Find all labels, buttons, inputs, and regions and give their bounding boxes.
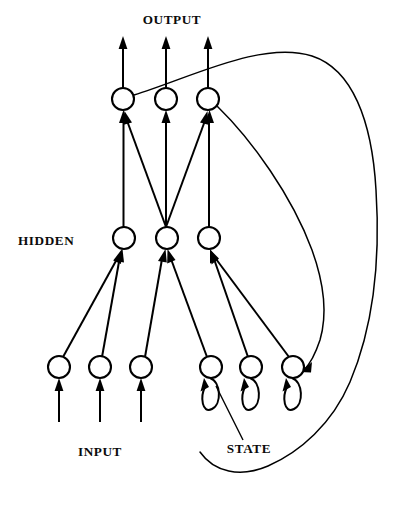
external-output-arrows xyxy=(119,36,213,88)
node-hidden-1[interactable] xyxy=(113,227,135,249)
network-diagram: OUTPUT HIDDEN INPUT STATE xyxy=(0,0,394,507)
arrow-hidden2-output1 xyxy=(124,111,132,125)
edge-state2-hidden3 xyxy=(214,259,248,357)
state-layer-nodes xyxy=(200,356,304,378)
label-hidden: HIDDEN xyxy=(18,233,74,248)
node-state-1[interactable] xyxy=(200,356,222,378)
state-leader-line xyxy=(216,386,243,440)
node-input-2[interactable] xyxy=(89,356,111,378)
edge-hidden2-output1 xyxy=(128,122,167,227)
label-output: OUTPUT xyxy=(143,12,202,27)
network-svg: OUTPUT HIDDEN INPUT STATE xyxy=(0,0,394,507)
edge-input3-hidden2 xyxy=(145,259,162,357)
node-output-1[interactable] xyxy=(112,88,134,110)
edge-hidden2-output3 xyxy=(166,122,205,227)
edge-state1-hidden2 xyxy=(171,259,207,357)
recurrent-edge-output3-to-state3 xyxy=(217,106,324,370)
input-to-hidden-edges xyxy=(63,249,289,357)
edge-input2-hidden1 xyxy=(102,259,120,357)
state-label-leader xyxy=(216,386,243,440)
node-input-3[interactable] xyxy=(130,356,152,378)
node-input-1[interactable] xyxy=(48,356,70,378)
node-hidden-2[interactable] xyxy=(156,227,178,249)
recurrent-edge-output1-to-state3 xyxy=(134,52,377,472)
node-output-2[interactable] xyxy=(155,88,177,110)
arrow-input3-hidden2 xyxy=(158,249,167,263)
edge-input1-hidden1 xyxy=(63,259,117,357)
node-output-3[interactable] xyxy=(197,88,219,110)
output-arrow-2-head xyxy=(162,36,171,49)
state-self-loops xyxy=(201,378,301,410)
label-state: STATE xyxy=(227,441,271,456)
input-arrow-2-head xyxy=(96,378,105,391)
edge-state3-hidden3 xyxy=(216,259,289,357)
output-arrow-1-head xyxy=(119,36,128,49)
node-state-3[interactable] xyxy=(282,356,304,378)
external-input-arrows xyxy=(55,378,146,422)
arrow-state1-hidden2 xyxy=(167,249,175,264)
input-layer-nodes xyxy=(48,356,152,378)
recurrent-feedback-edges xyxy=(134,52,377,472)
node-hidden-3[interactable] xyxy=(198,227,220,249)
output-arrow-3-head xyxy=(204,36,213,49)
node-state-2[interactable] xyxy=(240,356,262,378)
output-layer-nodes xyxy=(112,88,219,110)
input-arrow-3-head xyxy=(137,378,146,391)
arrow-input2-hidden1 xyxy=(115,249,124,263)
hidden-layer-nodes xyxy=(113,227,220,249)
input-arrow-1-head xyxy=(55,378,64,391)
arrow-hidden2-output2 xyxy=(162,110,171,123)
hidden-to-output-edges xyxy=(119,110,214,227)
label-input: INPUT xyxy=(78,444,122,459)
